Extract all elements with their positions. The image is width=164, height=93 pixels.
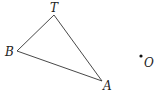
diagram-canvas: T B A O	[0, 0, 164, 93]
vertex-label-b: B	[4, 45, 14, 59]
point-o-dot	[139, 54, 142, 57]
vertex-label-t: T	[50, 1, 59, 15]
vertex-label-a: A	[102, 79, 112, 93]
triangle-tba	[17, 15, 102, 81]
point-label-o: O	[144, 56, 154, 70]
